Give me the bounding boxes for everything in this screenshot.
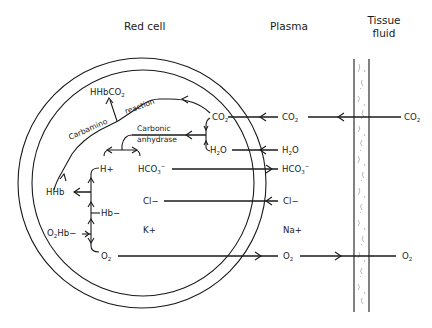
red-cell-outer-membrane: [18, 58, 266, 308]
arrow-up-icon: [106, 98, 113, 104]
capillary-wall: [354, 59, 369, 312]
carbonic-label: Carbonic: [137, 124, 171, 133]
plasma-na-plus-label: Na+: [283, 225, 302, 235]
carbonic-anhydrase-curve: [122, 135, 132, 145]
tissue-o2-label: O2: [402, 251, 412, 262]
cell-co2-label: CO2: [212, 112, 228, 123]
cell-h2o-label: H2O: [210, 145, 227, 156]
plasma-h2o-label: H2O: [282, 145, 299, 156]
plasma-co2-label: CO2: [282, 112, 298, 123]
anhydrase-label: anhydrase: [137, 135, 177, 144]
cell-o2hb-label: O2Hb−: [47, 228, 76, 239]
cell-cl-label: Cl−: [143, 196, 159, 206]
plasma-cl-label: Cl−: [283, 196, 299, 206]
to-hhbco2-line: [110, 100, 117, 121]
plasma-hco3-label: HCO3−: [282, 163, 310, 175]
cell-o2-label: O2: [101, 251, 111, 262]
cell-h-plus-label: H+: [100, 164, 114, 174]
header-red-cell: Red cell: [124, 20, 165, 32]
tissue-co2-label: CO2: [404, 112, 420, 123]
cell-hco3-label: HCO3−: [138, 163, 166, 175]
co2-transport-diagram: Red cell Plasma Tissue fluid CO2 CO2 CO2…: [0, 0, 432, 328]
cell-hb-minus-label: Hb−: [101, 208, 120, 218]
header-plasma: Plasma: [270, 20, 308, 32]
header-tissue-fluid-line2: fluid: [373, 27, 396, 39]
plasma-o2-label: O2: [283, 251, 293, 262]
hhbco2-label: HHbCO2: [90, 87, 125, 98]
reaction-label: reaction: [124, 97, 156, 116]
cell-k-plus-label: K+: [143, 225, 156, 235]
arrow-left-icon: [182, 96, 188, 103]
arrow-up-icon: [60, 174, 66, 181]
h-hco3-split: [104, 145, 140, 156]
header-tissue-fluid-line1: Tissue: [366, 14, 400, 26]
capillary-stipple: [358, 64, 365, 304]
cell-hhb-label: HHb: [46, 187, 64, 197]
